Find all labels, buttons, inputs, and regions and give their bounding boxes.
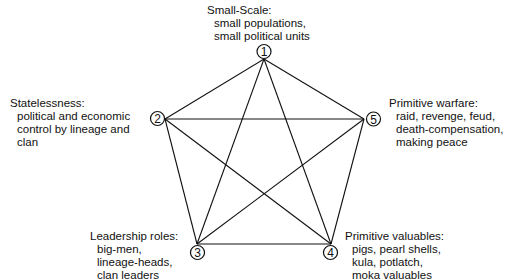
node-5-marker: 5 — [367, 112, 381, 127]
node-3-detail: clan leaders — [90, 269, 178, 280]
node-1-title: Small-Scale: — [207, 4, 310, 17]
edge-1-3 — [197, 59, 264, 244]
node-4-title: Primitive valuables: — [345, 230, 444, 243]
node-3-detail: lineage-heads, — [90, 256, 178, 269]
node-3-label: Leadership roles: big-men, lineage-heads… — [90, 230, 178, 280]
svg-text:2: 2 — [154, 112, 161, 126]
node-5-label: Primitive warfare: raid, revenge, feud, … — [389, 97, 503, 149]
node-markers: 1 2 3 4 5 — [151, 45, 381, 261]
svg-text:3: 3 — [194, 246, 201, 260]
edge-1-2 — [165, 59, 264, 119]
node-1-marker: 1 — [257, 45, 271, 60]
node-4-detail: moka valuables — [345, 269, 444, 280]
node-1-detail: small populations, — [207, 17, 310, 30]
node-4-label: Primitive valuables: pigs, pearl shells,… — [345, 230, 444, 280]
node-2-label: Statelessness: political and economic co… — [10, 97, 130, 149]
node-2-title: Statelessness: — [10, 97, 130, 110]
node-3-marker: 3 — [191, 246, 205, 261]
node-2-marker: 2 — [151, 112, 165, 127]
node-4-detail: pigs, pearl shells, — [345, 243, 444, 256]
node-2-detail: control by lineage and — [10, 123, 130, 136]
node-1-detail: small political units — [207, 30, 310, 43]
edge-2-3 — [165, 119, 197, 244]
node-5-title: Primitive warfare: — [389, 97, 503, 110]
node-3-detail: big-men, — [90, 243, 178, 256]
node-2-detail: political and economic — [10, 110, 130, 123]
node-5-detail: death-compensation, — [389, 123, 503, 136]
node-2-detail: clan — [10, 136, 130, 149]
node-4-marker: 4 — [324, 246, 338, 261]
node-5-detail: raid, revenge, feud, — [389, 110, 503, 123]
edges — [165, 59, 364, 244]
node-3-title: Leadership roles: — [90, 230, 178, 243]
node-5-detail: making peace — [389, 136, 503, 149]
edge-3-5 — [197, 119, 364, 244]
node-1-label: Small-Scale: small populations, small po… — [207, 4, 310, 43]
svg-text:1: 1 — [261, 45, 268, 59]
svg-text:5: 5 — [370, 113, 377, 127]
edge-2-4 — [165, 119, 331, 244]
edge-1-5 — [264, 59, 364, 119]
svg-text:4: 4 — [327, 246, 334, 260]
edge-4-5 — [331, 119, 364, 244]
node-4-detail: kula, potlatch, — [345, 256, 444, 269]
